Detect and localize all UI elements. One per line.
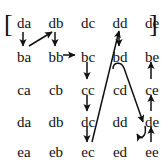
arrow-de-to-ee: [137, 126, 145, 137]
arrow-overlay: [0, 0, 165, 164]
arrow-bd-to-de: [113, 63, 143, 122]
arrow-ba-to-db: [29, 32, 52, 46]
matrix-figure: [ ] da db dc dd de ba bb bc bd be ca cb …: [0, 0, 165, 164]
arrow-ec-to-dd: [92, 31, 119, 142]
